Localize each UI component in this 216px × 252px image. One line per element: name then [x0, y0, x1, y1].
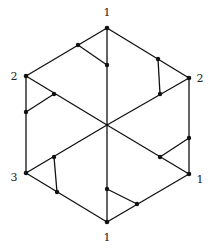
node-d2	[55, 190, 59, 194]
node-a1	[76, 43, 80, 47]
spoke-upper-right	[107, 78, 189, 125]
vertex-lower-left	[24, 171, 29, 176]
node-e1	[158, 155, 162, 159]
node-b2	[158, 92, 162, 96]
chord-c	[26, 94, 54, 112]
edge-top-upper-right	[107, 28, 189, 78]
label-bottom: 1	[104, 231, 111, 244]
node-f2	[135, 202, 139, 206]
node-b1	[156, 57, 160, 61]
vertex-upper-left	[24, 74, 29, 79]
chord-a	[78, 45, 107, 65]
label-lower-right: 1	[197, 173, 204, 186]
spoke-lower-right	[107, 125, 189, 174]
chord-f	[107, 189, 137, 204]
chord-d	[54, 157, 57, 192]
node-c2	[24, 110, 28, 114]
hexagon-graph-diagram: 1 2 2 3 1 1	[0, 0, 216, 252]
label-lower-left: 3	[11, 171, 18, 184]
edge-lower-right-bottom	[107, 174, 189, 222]
label-upper-left: 2	[11, 70, 18, 83]
edge-bottom-lower-left	[26, 173, 107, 222]
vertex-upper-right	[187, 76, 192, 81]
node-a2	[105, 63, 109, 67]
vertex-lower-right	[187, 172, 192, 177]
edge-upper-left-top	[26, 28, 107, 76]
chord-e	[160, 138, 189, 157]
node-c1	[52, 92, 56, 96]
label-upper-right: 2	[197, 72, 204, 85]
vertex-top	[105, 26, 110, 31]
label-top: 1	[104, 6, 111, 19]
node-e2	[187, 136, 191, 140]
chord-b	[158, 59, 160, 94]
vertex-bottom	[105, 220, 110, 225]
center-node	[106, 124, 108, 126]
spoke-lower-left	[26, 125, 107, 173]
node-f1	[105, 187, 109, 191]
spoke-upper-left	[26, 76, 107, 125]
node-d1	[52, 155, 56, 159]
